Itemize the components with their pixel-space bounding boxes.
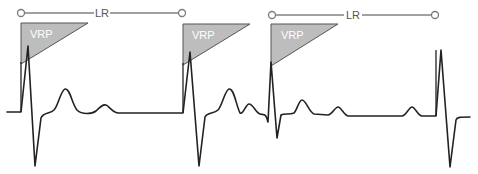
vrp-label: VRP [281, 29, 304, 41]
lr-end-marker [432, 12, 439, 19]
lr-end-marker [179, 10, 186, 17]
lr-interval-1: LR [18, 7, 186, 19]
lr-start-marker [269, 12, 276, 19]
pacemaker-timing-diagram: LR LR VRP VRP VRP [0, 0, 478, 174]
ecg-trace [7, 46, 470, 167]
vrp-window-3: VRP [271, 24, 338, 66]
vrp-window-2: VRP [183, 24, 250, 65]
vrp-window-1: VRP [21, 23, 88, 64]
lr-label: LR [95, 7, 109, 19]
vrp-label: VRP [192, 29, 215, 41]
lr-label: LR [346, 9, 360, 21]
lr-start-marker [18, 10, 25, 17]
lr-interval-2: LR [269, 9, 439, 21]
vrp-label: VRP [30, 28, 53, 40]
